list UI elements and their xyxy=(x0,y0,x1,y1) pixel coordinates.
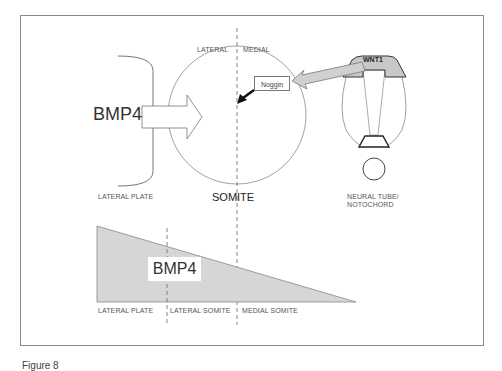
neural-tube-label-line1: NEURAL TUBE/ xyxy=(347,193,399,201)
bmp4-gradient-label: BMP4 xyxy=(148,257,201,281)
region-label-lateral-somite: LATERAL SOMITE xyxy=(170,307,231,315)
notochord-circle xyxy=(363,158,385,180)
wnt1-label: WNT1 xyxy=(363,56,383,63)
bmp4-source-label: BMP4 xyxy=(93,104,142,125)
neural-tube-lumen xyxy=(363,70,385,135)
lateral-label: LATERAL xyxy=(197,46,228,54)
medial-label: MEDIAL xyxy=(243,46,270,54)
neural-tube-label: NEURAL TUBE/ NOTOCHORD xyxy=(347,193,399,210)
neural-tube-label-line2: NOTOCHORD xyxy=(347,201,399,209)
noggin-box: Noggin xyxy=(254,76,290,91)
region-label-medial-somite: MEDIAL SOMITE xyxy=(242,307,298,315)
bmp4-gradient-triangle xyxy=(97,226,356,302)
region-label-lateral-plate: LATERAL PLATE xyxy=(98,307,153,315)
floor-plate xyxy=(359,136,389,147)
bmp4-arrow-icon xyxy=(142,95,202,139)
somite-label: SOMITE xyxy=(212,191,254,203)
lateral-plate-label: LATERAL PLATE xyxy=(98,193,153,201)
figure-caption: Figure 8 xyxy=(22,360,59,371)
